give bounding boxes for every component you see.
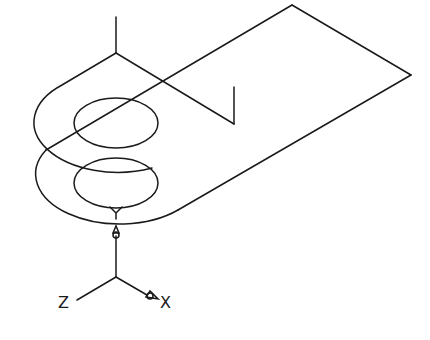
upper-plate-rounded-end bbox=[34, 53, 152, 172]
upper-plate-right-edge bbox=[116, 53, 234, 124]
z-axis-label: Z bbox=[58, 295, 69, 311]
drawing-canvas bbox=[0, 0, 430, 340]
y-label-glyph bbox=[110, 207, 122, 219]
z-axis-line bbox=[77, 277, 116, 300]
x-axis-label: X bbox=[160, 295, 171, 311]
long-plate-far-edge bbox=[292, 5, 411, 75]
upper-hole bbox=[74, 98, 158, 148]
x-axis-line bbox=[116, 277, 147, 295]
long-plate bbox=[46, 5, 411, 210]
lower-hole bbox=[74, 158, 158, 208]
lower-plate-rounded-end bbox=[36, 150, 178, 224]
long-plate-left-edge bbox=[46, 5, 292, 150]
lower-plate bbox=[36, 150, 178, 224]
long-plate-right-edge bbox=[178, 75, 411, 210]
upper-plate bbox=[34, 17, 234, 172]
